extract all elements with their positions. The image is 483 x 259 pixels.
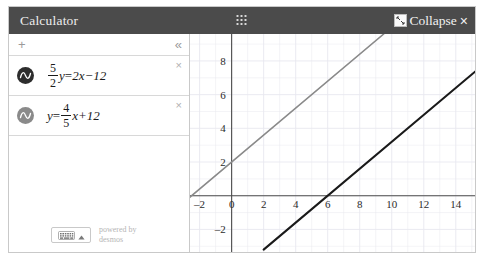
expression-2-numerator: 4 [61,102,71,115]
caret-up-icon [78,226,85,244]
titlebar-actions: Collapse × [394,7,469,34]
y-axis-tick-label: 8 [220,55,226,67]
powered-by-line2: desmos [99,235,123,244]
x-axis-tick-label: –2 [193,198,205,210]
keyboard-icon [58,226,75,244]
grid-dots-icon[interactable] [237,15,248,26]
expression-1-denominator: 2 [48,76,58,89]
expression-empty-area[interactable] [9,136,189,218]
x-axis-tick-label: 14 [450,198,462,210]
graph-plot[interactable]: –2024681012148642–2 [190,34,475,252]
x-axis-tick-label: 4 [293,198,299,210]
close-icon[interactable]: × [460,14,469,28]
expression-1-fraction: 5 2 [48,62,58,89]
expression-row-1[interactable]: 5 2 y = 2x−12 × [9,56,189,96]
expression-2-fraction: 4 5 [61,102,71,129]
expression-2-rhs-tail: x+12 [72,108,100,124]
page-title: Calculator [9,13,78,29]
expression-1-latex: 5 2 y = 2x−12 [47,62,106,89]
sine-wave-circle-icon[interactable] [17,107,34,124]
expression-panel-footer: powered by desmos [9,218,189,252]
collapse-button[interactable]: Collapse [410,13,457,29]
sine-wave-circle-icon[interactable] [17,67,34,84]
x-axis-tick-label: 6 [325,198,331,210]
calculator-window: Calculator Collapse × + « [8,6,476,253]
expression-2-equals: = [53,108,60,124]
expression-1-numerator: 5 [48,62,58,75]
graph-canvas[interactable]: –2024681012148642–2 [190,34,475,252]
powered-by-label: powered by desmos [99,225,137,245]
expression-1-equals: = [65,68,72,84]
x-axis-tick-label: 10 [386,198,398,210]
expression-row-2[interactable]: y = 4 5 x+12 × [9,96,189,136]
x-axis-tick-label: 12 [418,198,429,210]
collapse-panel-button[interactable]: « [175,38,181,51]
expression-2-denominator: 5 [61,116,71,129]
x-axis-tick-label: 0 [229,198,235,210]
window-titlebar: Calculator Collapse × [9,7,475,34]
y-axis-tick-label: 6 [220,89,226,101]
y-axis-tick-label: 4 [220,122,226,134]
delete-expression-1-icon[interactable]: × [176,60,182,71]
y-axis-tick-label: 2 [220,156,226,168]
y-axis-tick-label: –2 [214,223,226,235]
window-body: + « 5 2 y = 2x−12 [9,34,475,252]
add-expression-button[interactable]: + [18,38,26,51]
x-axis-tick-label: 2 [261,198,267,210]
expression-1-rhs: 2x−12 [72,68,106,84]
expression-panel: + « 5 2 y = 2x−12 [9,34,190,252]
expression-toolbar: + « [9,34,189,56]
x-axis-tick-label: 8 [357,198,363,210]
collapse-arrows-icon[interactable] [394,14,407,27]
delete-expression-2-icon[interactable]: × [176,100,182,111]
keyboard-button[interactable] [51,227,91,243]
expression-2-latex: y = 4 5 x+12 [47,102,100,129]
powered-by-line1: powered by [99,225,137,234]
